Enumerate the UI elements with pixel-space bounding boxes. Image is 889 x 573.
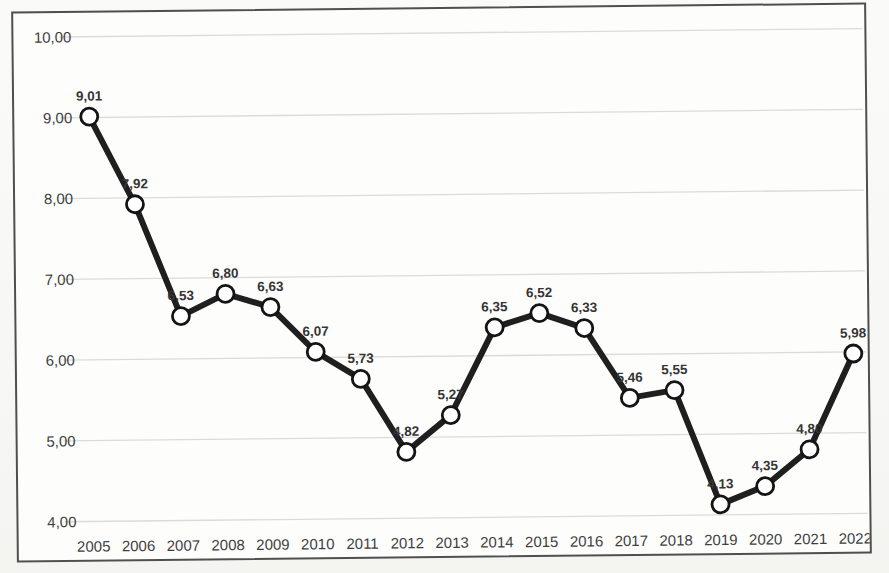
x-tick-label: 2013 xyxy=(435,534,469,551)
x-tick-label: 2021 xyxy=(794,530,828,547)
gridline xyxy=(61,190,864,198)
data-point-label: 7,92 xyxy=(122,176,148,191)
data-point-label: 6,63 xyxy=(257,279,284,294)
y-tick-label: 7,00 xyxy=(45,271,74,288)
x-tick-label: 2008 xyxy=(211,536,245,553)
x-tick-label: 2010 xyxy=(301,535,335,552)
gridline xyxy=(60,109,863,117)
x-tick-label: 2016 xyxy=(570,532,604,549)
gridline xyxy=(64,433,867,441)
data-point-label: 5,73 xyxy=(347,351,374,366)
data-point-label: 5,98 xyxy=(840,325,867,340)
x-tick-label: 2005 xyxy=(77,537,111,554)
data-point-label: 4,82 xyxy=(393,424,419,439)
data-point-marker xyxy=(217,285,234,302)
x-tick-label: 2006 xyxy=(122,537,156,554)
x-tick-label: 2018 xyxy=(659,531,693,548)
data-point-marker xyxy=(442,407,459,424)
x-tick-label: 2019 xyxy=(704,531,738,548)
y-tick-label: 10,00 xyxy=(34,28,72,45)
data-point-label: 6,80 xyxy=(212,266,238,281)
data-point-label: 6,07 xyxy=(302,324,328,339)
y-tick-label: 8,00 xyxy=(44,190,73,207)
data-point-marker xyxy=(307,343,324,360)
data-point-marker xyxy=(81,108,98,125)
line-chart: 10,009,008,007,006,005,004,0020052006200… xyxy=(13,5,870,561)
data-point-label: 5,27 xyxy=(437,387,463,402)
x-tick-label: 2012 xyxy=(391,534,425,551)
data-point-label: 6,35 xyxy=(481,299,508,314)
chart-page: 10,009,008,007,006,005,004,0020052006200… xyxy=(0,0,889,573)
data-point-marker xyxy=(845,345,862,362)
data-point-marker xyxy=(666,382,683,399)
x-tick-label: 2022 xyxy=(839,530,870,547)
x-tick-label: 2017 xyxy=(615,532,649,549)
data-point-label: 4,35 xyxy=(752,458,779,473)
x-tick-label: 2020 xyxy=(749,530,783,547)
data-point-marker xyxy=(757,478,774,495)
data-point-marker xyxy=(398,443,415,460)
data-point-marker xyxy=(531,305,548,322)
y-tick-label: 4,00 xyxy=(47,513,76,530)
gridline xyxy=(62,271,865,279)
data-point-label: 6,53 xyxy=(168,288,195,303)
y-tick-label: 5,00 xyxy=(46,432,75,449)
gridline xyxy=(59,29,862,37)
y-tick-label: 6,00 xyxy=(46,352,75,369)
data-line xyxy=(89,109,855,511)
data-point-marker xyxy=(352,370,369,387)
x-tick-label: 2007 xyxy=(167,537,201,554)
data-point-marker xyxy=(126,196,143,213)
gridline xyxy=(63,352,866,360)
x-tick-label: 2009 xyxy=(256,536,290,553)
data-point-label: 4,13 xyxy=(707,476,734,491)
data-point-label: 6,33 xyxy=(571,300,598,315)
data-point-marker xyxy=(576,319,593,336)
x-tick-label: 2015 xyxy=(525,533,559,550)
data-point-label: 4,80 xyxy=(796,421,822,436)
gridline xyxy=(64,513,867,521)
chart-frame: 10,009,008,007,006,005,004,0020052006200… xyxy=(11,3,872,563)
x-tick-label: 2011 xyxy=(346,535,378,552)
data-point-label: 6,52 xyxy=(526,285,552,300)
data-point-label: 9,01 xyxy=(76,89,103,104)
data-point-label: 5,46 xyxy=(616,370,643,385)
data-point-marker xyxy=(801,441,818,458)
x-tick-label: 2014 xyxy=(480,533,514,550)
data-point-marker xyxy=(712,496,729,513)
data-point-marker xyxy=(262,299,279,316)
data-point-marker xyxy=(621,389,638,406)
data-point-marker xyxy=(486,319,503,336)
data-point-label: 5,55 xyxy=(661,362,688,377)
data-point-marker xyxy=(172,308,189,325)
y-tick-label: 9,00 xyxy=(43,109,72,126)
